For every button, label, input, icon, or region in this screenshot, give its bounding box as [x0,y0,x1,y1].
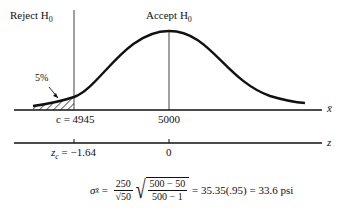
accept-h0-label: Accept H0 [146,10,192,24]
z-zero-label: 0 [166,147,172,158]
fraction-sigma-over-sqrt-n: 250 √50 [114,178,133,203]
z-axis-label: z [327,137,331,148]
std-error-formula: σx̄ = 250 √50 √ 500 − 50 500 − 1 = 35.35… [90,177,293,203]
arrowhead-icon [53,93,58,98]
xbar-axis-label: x̄ [327,103,332,114]
radical-icon: √ [136,177,146,202]
finite-correction-sqrt: √ 500 − 50 500 − 1 [136,177,190,203]
frac1-numerator: 250 [114,178,133,191]
mean-label: 5000 [158,114,180,125]
frac2-denominator: 500 − 1 [152,191,183,203]
frac2-numerator: 500 − 50 [148,178,188,191]
zc-label: zc = −1.64 [51,147,96,161]
tail-percent-label: 5% [35,73,48,83]
equals-sign: = [99,184,111,196]
formula-result: = 35.35(.95) = 33.6 psi [189,184,293,196]
reject-h0-label: Reject H0 [10,10,53,24]
critical-value-label: c = 4945 [56,114,95,125]
frac1-denominator: √50 [115,191,131,203]
